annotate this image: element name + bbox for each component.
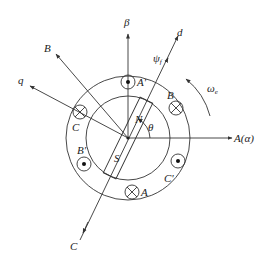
rotor-center — [126, 136, 129, 139]
south-pole-label: S — [114, 152, 120, 164]
alpha-axis-label: A(α) — [233, 132, 254, 145]
coil-a-label: A — [140, 186, 148, 198]
north-pole-label: N — [134, 113, 143, 125]
coil-b-label: B — [167, 89, 174, 101]
diagram-canvas: A(α) β d q B C ψf ωe θ N S A' B C' A B' … — [0, 0, 269, 269]
d-axis-label: d — [177, 26, 183, 38]
theta-label: θ — [148, 121, 154, 133]
coil-c — [73, 105, 87, 119]
coil-c-prime — [171, 154, 185, 168]
c-axis — [83, 222, 88, 233]
coil-a — [125, 185, 139, 199]
beta-axis-label: β — [123, 16, 130, 28]
flux-label: ψf — [153, 52, 163, 66]
c-axis-label: C — [70, 240, 78, 252]
b-axis — [56, 54, 128, 138]
pmsm-coordinate-diagram: A(α) β d q B C ψf ωe θ N S A' B C' A B' … — [0, 0, 269, 269]
q-axis-label: q — [18, 74, 24, 86]
coil-b — [169, 101, 183, 115]
coil-c-label: C — [72, 121, 80, 133]
speed-label: ωe — [207, 82, 218, 96]
coil-c-prime-label: C' — [164, 172, 174, 184]
b-axis-label: B — [44, 42, 51, 54]
coil-a-prime-label: A' — [136, 76, 147, 88]
coil-b-prime-label: B' — [77, 144, 87, 156]
coil-b-prime — [77, 157, 91, 171]
